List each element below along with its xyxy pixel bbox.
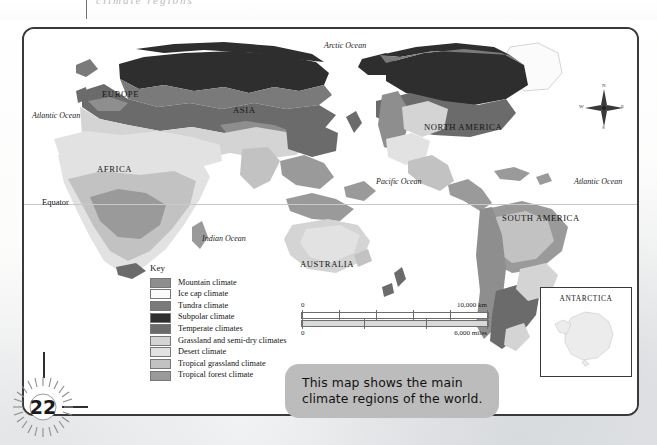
compass-south-label: S: [602, 125, 605, 130]
legend-swatch: [150, 347, 171, 357]
map-panel: Equator EUROPE ASIA AFRICA AUSTRALIA NOR…: [22, 27, 639, 416]
scale-miles-end: 6,000 miles: [454, 329, 487, 337]
legend-swatch: [150, 278, 171, 288]
scale-miles-start: 0: [301, 329, 305, 337]
legend-item-tundra: Tundra climate: [150, 300, 287, 312]
compass-rose-icon: N S E W: [580, 84, 628, 132]
antarctica-inset: ANTARCTICA: [540, 287, 632, 377]
compass-west-label: W: [579, 104, 584, 109]
caption-line-1: This map shows the main: [302, 375, 499, 391]
map-canvas: Equator EUROPE ASIA AFRICA AUSTRALIA NOR…: [24, 29, 637, 414]
equator-line: [24, 204, 637, 205]
legend-label: Mountain climate: [178, 279, 237, 287]
legend-item-subpolar: Subpolar climate: [150, 312, 287, 324]
page-rule-vertical: [43, 352, 45, 378]
antarctica-inset-title: ANTARCTICA: [541, 294, 631, 303]
compass-east-label: E: [621, 104, 624, 109]
legend-swatch: [150, 301, 171, 311]
legend-item-tropical-forest: Tropical forest climate: [150, 370, 287, 382]
legend-label: Subpolar climate: [178, 313, 234, 321]
page-number-value: 22: [12, 376, 74, 438]
legend-swatch: [150, 336, 171, 346]
cropped-heading-text: climate regions: [96, 0, 194, 6]
legend-label: Temperate climates: [178, 325, 243, 333]
legend-swatch: [150, 289, 171, 299]
legend-label: Tundra climate: [178, 302, 228, 310]
scale-km-end: 10,000 km: [457, 301, 487, 309]
legend-swatch: [150, 313, 171, 323]
legend-item-temperate: Temperate climates: [150, 323, 287, 335]
crop-mark-line: [86, 0, 87, 19]
legend-item-ice-cap: Ice cap climate: [150, 289, 287, 301]
scale-bar-km: [301, 312, 489, 319]
legend-item-mountain: Mountain climate: [150, 277, 287, 289]
legend-item-tropical-grassland: Tropical grassland climate: [150, 358, 287, 370]
legend-label: Ice cap climate: [178, 290, 228, 298]
scale-km-start: 0: [301, 301, 305, 309]
legend-item-desert: Desert climate: [150, 347, 287, 359]
legend-swatch: [150, 324, 171, 334]
legend-label: Tropical forest climate: [178, 371, 253, 379]
legend-item-grassland-semi-dry: Grassland and semi-dry climates: [150, 335, 287, 347]
map-legend: Key Mountain climate Ice cap climate Tun…: [150, 263, 287, 381]
page-top-margin: climate regions: [0, 0, 657, 20]
page-number-badge: 22: [12, 376, 74, 438]
legend-title: Key: [150, 263, 287, 273]
compass-north-label: N: [602, 83, 606, 88]
legend-swatch: [150, 371, 171, 381]
legend-label: Grassland and semi-dry climates: [178, 337, 287, 345]
legend-label: Desert climate: [178, 348, 226, 356]
caption-line-2: climate regions of the world.: [302, 391, 499, 407]
legend-swatch: [150, 359, 171, 369]
legend-label: Tropical grassland climate: [178, 360, 266, 368]
scale-bar-miles: [301, 320, 489, 327]
map-caption-bubble: This map shows the main climate regions …: [285, 364, 499, 418]
